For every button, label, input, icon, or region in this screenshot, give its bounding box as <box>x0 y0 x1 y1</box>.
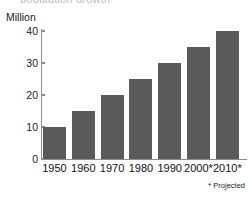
bar-1950 <box>43 127 66 159</box>
bar-chart: population growth Million 010203040 1950… <box>0 0 248 198</box>
projected-footnote: * Projected <box>208 181 245 190</box>
bar-1960 <box>72 111 95 159</box>
bar-2010-projected <box>216 31 239 159</box>
bar-1970 <box>101 95 124 159</box>
bar-1980 <box>129 79 152 159</box>
x-label-2010-projected: 2010* <box>210 161 244 175</box>
bar-2000-projected <box>187 47 210 159</box>
bar-1990 <box>158 63 181 159</box>
